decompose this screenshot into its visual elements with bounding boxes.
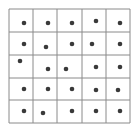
dot (64, 67, 69, 72)
dot (46, 87, 51, 92)
dot (70, 42, 75, 47)
dot (22, 42, 27, 47)
dot (46, 21, 51, 26)
dot (22, 87, 27, 92)
dot (116, 88, 121, 93)
dot (118, 42, 123, 47)
dot (41, 111, 46, 116)
dot (94, 109, 99, 114)
dot (18, 59, 23, 64)
dot (46, 67, 51, 72)
dot (22, 109, 27, 114)
dot (94, 19, 99, 24)
dot (118, 65, 123, 70)
dot (70, 87, 75, 92)
grid-svg (0, 0, 136, 130)
dot (90, 42, 95, 47)
dot-grid-diagram (0, 0, 136, 130)
dot (70, 21, 75, 26)
dot (22, 21, 27, 26)
dot (70, 109, 75, 114)
dot (94, 65, 99, 70)
dot (118, 21, 123, 26)
dot (94, 88, 99, 93)
dot (44, 45, 49, 50)
dot (118, 109, 123, 114)
